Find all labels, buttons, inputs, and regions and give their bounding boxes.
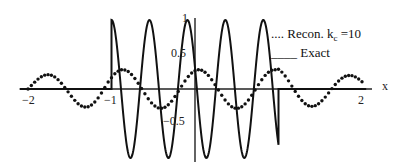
tick-y-neg05: −0.5 (163, 114, 185, 128)
legend-exact: ____ Exact (270, 45, 330, 60)
chart: −2 −1 2 1 0.5 −0.5 x .... Recon. kc =10 … (0, 0, 407, 168)
tick-y-1: 1 (182, 11, 188, 25)
tick-x-neg1: −1 (104, 93, 117, 107)
tick-x-neg2: −2 (22, 93, 35, 107)
tick-x-2: 2 (358, 93, 364, 107)
tick-y-05: 0.5 (171, 46, 186, 60)
x-axis-label: x (382, 79, 388, 93)
legend-recon: .... Recon. kc =10 (271, 26, 361, 43)
